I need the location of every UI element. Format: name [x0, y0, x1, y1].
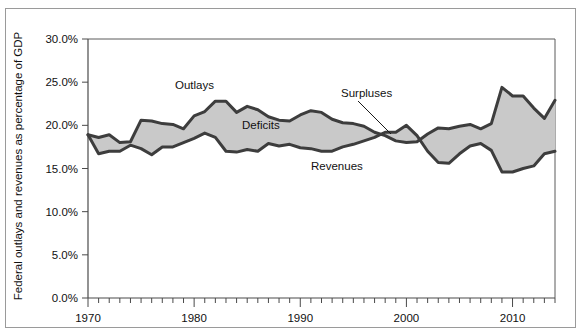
- y-axis-tick-label: 25.0%: [45, 76, 78, 88]
- y-axis-tick-label: 20.0%: [45, 119, 78, 131]
- annotation-outlays: Outlays: [175, 79, 214, 91]
- annotation-revenues: Revenues: [311, 160, 363, 172]
- chart-figure: Federal outlays and revenues as percenta…: [0, 0, 584, 336]
- y-axis-tick-label: 0.0%: [52, 292, 78, 304]
- y-axis-tick-label: 15.0%: [45, 163, 78, 175]
- annotation-deficits: Deficits: [242, 119, 280, 131]
- annotation-surpluses: Surpluses: [341, 87, 392, 99]
- x-axis-tick-label: 1990: [287, 312, 313, 324]
- chart-svg: 0.0%5.0%10.0%15.0%20.0%25.0%30.0%1970198…: [0, 0, 584, 336]
- y-axis-tick-label: 10.0%: [45, 206, 78, 218]
- x-axis-tick-label: 1980: [181, 312, 207, 324]
- x-axis-tick-label: 2010: [500, 312, 526, 324]
- plot-area: 0.0%5.0%10.0%15.0%20.0%25.0%30.0%1970198…: [0, 0, 584, 336]
- x-axis-tick-label: 1970: [75, 312, 101, 324]
- y-axis-tick-label: 5.0%: [52, 249, 78, 261]
- chart-generated-content: 0.0%5.0%10.0%15.0%20.0%25.0%30.0%1970198…: [45, 33, 555, 324]
- y-axis-tick-label: 30.0%: [45, 33, 78, 45]
- x-axis-tick-label: 2000: [394, 312, 420, 324]
